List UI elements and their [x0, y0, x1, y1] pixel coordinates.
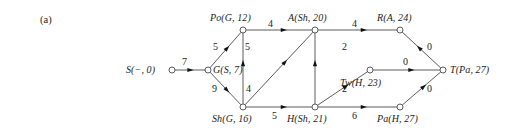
node-R[interactable]: [397, 27, 403, 33]
node-A[interactable]: [312, 27, 318, 33]
edge-weight-G-Sh: 9: [212, 83, 217, 94]
arrow-Po-to-A: [281, 28, 287, 32]
node-label-S: S(−, 0): [126, 64, 155, 75]
node-label-H: H(Sh, 21): [287, 113, 327, 124]
node-S[interactable]: [169, 67, 175, 73]
edge-weight-H-Pa: 6: [352, 110, 357, 121]
figure-container: (a) S(−, 0)G(S, 7)Po(G, 12)A(Sh, 20)R(A,…: [0, 0, 509, 132]
node-label-Po: Po(G, 12): [210, 12, 251, 23]
arrow-Tw-to-T: [408, 68, 414, 72]
edge-weight-T-R: 0: [427, 41, 432, 52]
node-Tw[interactable]: [367, 67, 373, 73]
arrow-A-to-R: [361, 28, 367, 32]
edge-Sh-to-A: [245, 32, 313, 105]
edge-weight-A-R: 4: [352, 18, 357, 29]
edge-weight-Sh-Po: 5: [245, 41, 250, 52]
node-G[interactable]: [205, 67, 211, 73]
nodes-layer: [169, 27, 446, 110]
node-label-R: R(A, 24): [377, 12, 412, 23]
arrow-Sh-to-H: [281, 105, 287, 109]
node-label-T: T(Pa, 27): [450, 64, 489, 75]
node-H[interactable]: [312, 104, 318, 110]
arrow-H-to-Pa: [361, 105, 367, 109]
edge-weight-Sh-A: 4: [246, 83, 251, 94]
edge-weight-Po-A: 4: [268, 18, 273, 29]
node-Pa[interactable]: [397, 104, 403, 110]
edge-weight-Sh-H: 5: [272, 110, 277, 121]
node-label-Sh: Sh(G, 16): [212, 113, 252, 124]
node-Po[interactable]: [240, 27, 246, 33]
graph-canvas: [0, 0, 509, 132]
node-Sh[interactable]: [240, 104, 246, 110]
edge-weight-S-G: 7: [182, 56, 187, 67]
edge-weight-H-Tw: 2: [342, 83, 347, 94]
arrow-S-to-G: [187, 68, 193, 72]
edge-weight-H-A: 2: [342, 41, 347, 52]
edge-weight-G-Po: 5: [213, 41, 218, 52]
node-label-Pa: Pa(H, 27): [377, 113, 418, 124]
edge-weight-Tw-T: 0: [403, 56, 408, 67]
edge-weight-Pa-T: 0: [427, 83, 432, 94]
arrow-H-to-A: [313, 60, 317, 66]
node-label-G: G(S, 7): [213, 64, 243, 75]
node-label-A: A(Sh, 20): [288, 12, 327, 23]
node-T[interactable]: [440, 67, 446, 73]
